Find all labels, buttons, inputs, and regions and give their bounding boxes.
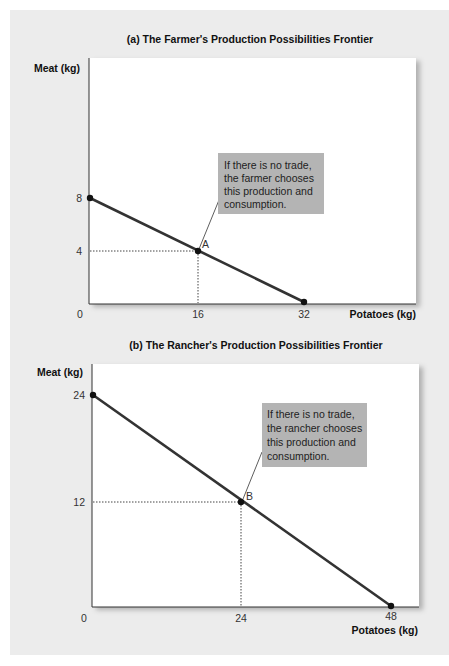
x-axis-label: Potatoes (kg) xyxy=(349,308,416,320)
y-tick: 8 xyxy=(76,192,82,204)
plot-area xyxy=(92,364,419,607)
y-axis-label: Meat (kg) xyxy=(34,62,80,74)
chart-rancher: (b) The Rancher's Production Possibiliti… xyxy=(37,339,419,636)
callout-line: this production and xyxy=(224,185,313,197)
data-point-b xyxy=(238,499,244,505)
callout-line: consumption. xyxy=(224,198,286,210)
x-tick: 0 xyxy=(81,612,87,624)
y-tick: 12 xyxy=(73,496,85,508)
callout-line: the farmer chooses xyxy=(224,172,314,184)
x-axis-label: Potatoes (kg) xyxy=(351,624,418,636)
chart-title: (b) The Rancher's Production Possibiliti… xyxy=(129,339,382,351)
x-tick: 48 xyxy=(385,610,397,622)
callout-line: If there is no trade, xyxy=(224,159,312,171)
data-point xyxy=(301,299,307,305)
y-tick: 24 xyxy=(73,389,85,401)
data-point-a xyxy=(195,248,201,254)
x-tick: 24 xyxy=(235,612,247,624)
y-axis-label: Meat (kg) xyxy=(37,366,83,378)
callout-line: consumption. xyxy=(267,450,329,462)
data-point xyxy=(90,392,96,398)
data-point xyxy=(87,195,93,201)
callout-line: this production and xyxy=(267,436,356,448)
callout-line: the rancher chooses xyxy=(267,422,362,434)
point-label-b: B xyxy=(246,490,253,502)
callout-line: If there is no trade, xyxy=(267,408,355,420)
x-tick: 0 xyxy=(77,308,83,320)
chart-farmer: (a) The Farmer's Production Possibilitie… xyxy=(34,33,416,320)
x-tick: 16 xyxy=(192,308,204,320)
data-point xyxy=(388,603,394,609)
y-tick: 4 xyxy=(76,245,82,257)
chart-title: (a) The Farmer's Production Possibilitie… xyxy=(127,33,373,45)
x-tick: 32 xyxy=(298,308,310,320)
ppf-figure: (a) The Farmer's Production Possibilitie… xyxy=(0,0,449,666)
